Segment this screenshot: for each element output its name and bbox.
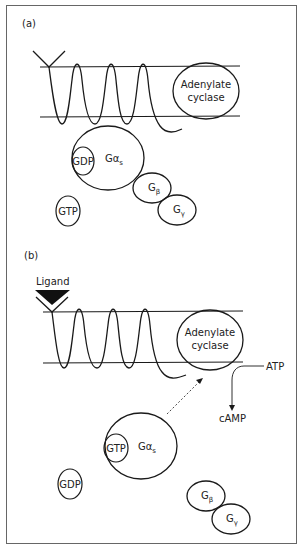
figure-frame [7,6,297,544]
arrowhead-icon [196,378,203,384]
g-gamma-label: Gγ [173,204,185,218]
receptor-y-icon [33,51,65,67]
activation-dashed-arrow [167,380,201,414]
adenylate-cyclase-label-1: Adenylate [185,327,235,338]
free-gtp-label: GTP [58,206,78,217]
gdp-bound-label: GDP [72,156,93,167]
ligand-label: Ligand [36,276,70,287]
membrane-inner-line [43,362,243,363]
adenylate-cyclase [173,63,239,119]
adenylate-cyclase-label-1: Adenylate [181,79,231,90]
receptor-7tm-coil [49,64,182,132]
gtp-bound-label: GTP [106,443,126,454]
g-alpha-s-label: Gαs [138,441,156,455]
panel-b: (b) Ligand Adenylate cyclase ATP cAMP GT… [24,250,284,534]
adenylate-cyclase-label-2: cyclase [187,92,224,103]
panel-a: (a) Adenylate cyclase GDP Gαs Gβ Gγ GTP [22,18,240,226]
atp-to-camp-arrow [232,366,264,406]
receptor-7tm-coil [52,309,186,378]
adenylate-cyclase-label-2: cyclase [191,340,228,351]
ligand-icon [35,290,70,305]
g-protein-signaling-diagram: (a) Adenylate cyclase GDP Gαs Gβ Gγ GTP [0,0,302,547]
g-gamma-label: Gγ [226,513,238,527]
g-beta-label: Gβ [201,490,213,504]
arrowhead-icon [229,405,235,411]
free-gdp-label: GDP [59,479,80,490]
panel-a-label: (a) [22,18,36,29]
panel-b-label: (b) [24,250,38,261]
g-alpha-s-label: Gαs [105,153,123,167]
camp-label: cAMP [219,413,246,424]
g-beta-label: Gβ [148,182,160,196]
membrane-inner-line [40,116,240,117]
atp-label: ATP [266,361,284,372]
